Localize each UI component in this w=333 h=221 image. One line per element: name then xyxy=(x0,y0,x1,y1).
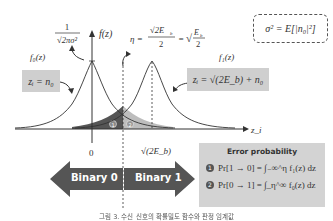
binary-0-label: Binary 0 xyxy=(71,172,118,183)
eta-numerator: √2E xyxy=(150,25,165,35)
binary-1-label: Binary 1 xyxy=(135,172,182,183)
f1-model-box: zᵢ = √(2E_b) + n₀ xyxy=(187,68,269,91)
y-axis-label: f(z) xyxy=(99,28,113,40)
error-probability-box: Error probability 1 Pr[1 → 0] = ∫₋∞^η f₁… xyxy=(199,143,325,207)
sigma-definition: σ² = E[|n₀|²] xyxy=(253,14,328,43)
f0-model-box: zᵢ = n₀ xyxy=(22,70,60,92)
peak-label: √2πσ² xyxy=(57,35,77,45)
error-formula-2: Pr[0 → 1] = ∫_η^∞ f₀(z) dz xyxy=(218,180,316,190)
svg-text:2: 2 xyxy=(128,122,131,128)
svg-text:=: = xyxy=(178,34,184,44)
x-axis-label: z_i xyxy=(250,125,262,135)
eta-symbol: η = xyxy=(130,34,143,44)
svg-text:b: b xyxy=(200,33,203,38)
error-box-title: Error probability xyxy=(199,147,325,156)
marker-2-icon: 2 xyxy=(206,181,214,189)
marker-1-icon: 1 xyxy=(206,164,214,172)
svg-text:2: 2 xyxy=(159,39,163,49)
svg-text:b: b xyxy=(170,31,173,36)
error-row-2: 2 Pr[0 → 1] = ∫_η^∞ f₀(z) dz xyxy=(206,180,325,190)
figure-caption: 그림 3. 수신 신호의 확률밀도 함수와 판정 임계값 xyxy=(0,211,333,221)
y-axis-arrow-icon xyxy=(89,30,95,37)
x-axis-arrow-icon xyxy=(243,126,249,132)
f0-label: f₀(z) xyxy=(30,52,45,62)
error-row-1: 1 Pr[1 → 0] = ∫₋∞^η f₁(z) dz xyxy=(206,163,325,173)
svg-text:√: √ xyxy=(186,32,193,44)
svg-text:E: E xyxy=(193,28,199,37)
svg-text:2: 2 xyxy=(196,39,200,49)
f1-label: f₁(z) xyxy=(219,52,234,62)
svg-text:1: 1 xyxy=(111,122,114,128)
tick-zero: 0 xyxy=(89,148,94,158)
error-formula-1: Pr[1 → 0] = ∫₋∞^η f₁(z) dz xyxy=(218,163,316,173)
svg-text:1: 1 xyxy=(65,22,70,32)
tick-signal: √(2E_b) xyxy=(141,146,171,156)
